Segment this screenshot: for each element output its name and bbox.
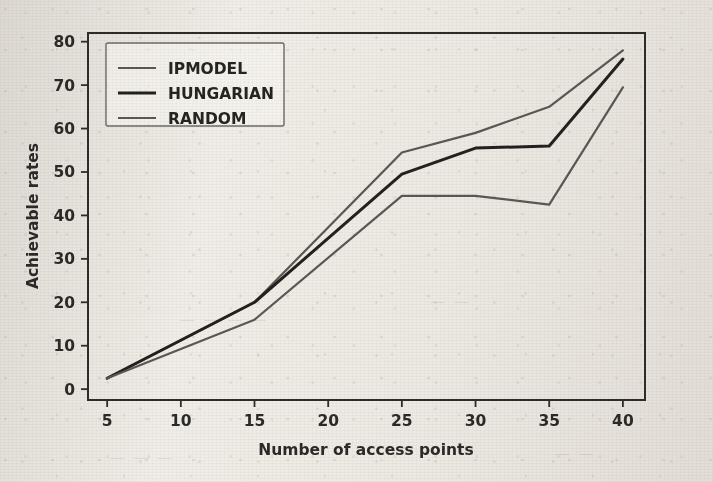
y-tick-label: 40 [53,207,75,225]
x-tick-label: 25 [391,412,413,430]
x-tick-label: 35 [538,412,560,430]
chart-canvas: 01020304050607080 510152025303540 Achiev… [0,0,713,482]
x-tick-label: 10 [170,412,192,430]
x-tick-label: 40 [612,412,634,430]
y-tick-label: 50 [53,163,75,181]
line-chart: 01020304050607080 510152025303540 Achiev… [0,0,713,482]
y-tick-label: 30 [53,250,75,268]
y-axis-title: Achievable rates [24,143,42,289]
x-axis-title: Number of access points [258,441,474,459]
legend-label-random: RANDOM [168,110,246,128]
x-tick-label: 15 [244,412,266,430]
y-tick-label: 0 [64,381,75,399]
legend-label-hungarian: HUNGARIAN [168,85,274,103]
x-tick-label: 20 [317,412,339,430]
legend-label-ipmodel: IPMODEL [168,60,247,78]
x-axis-ticks: 510152025303540 [102,400,634,430]
figure-page: — — — — — — — — — — — 01020304050607080 … [0,0,713,482]
x-tick-label: 30 [465,412,487,430]
x-tick-label: 5 [102,412,113,430]
y-axis-ticks: 01020304050607080 [53,33,88,398]
y-tick-label: 20 [53,294,75,312]
y-tick-label: 60 [53,120,75,138]
y-tick-label: 10 [53,337,75,355]
series-line-random [107,87,623,378]
y-tick-label: 80 [53,33,75,51]
y-tick-label: 70 [53,77,75,95]
chart-legend: IPMODELHUNGARIANRANDOM [106,43,284,128]
